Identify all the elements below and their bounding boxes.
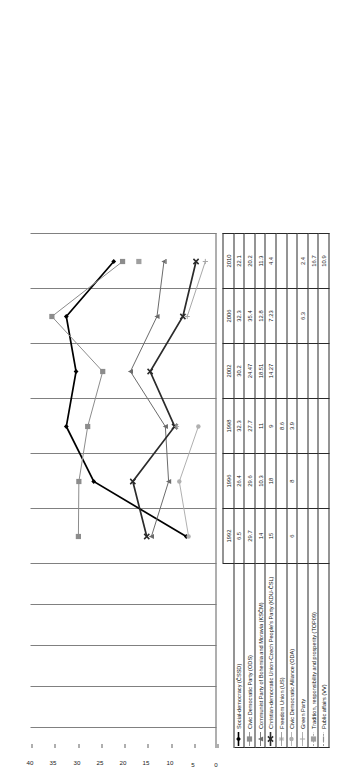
value-axis-tick: 5 (189, 750, 197, 766)
table-cell: 8.6 (275, 399, 286, 454)
table-column-header-2010: 2010 (223, 234, 234, 289)
legend-entry[interactable]: Civic Democratic Party (ODS) (244, 564, 255, 748)
table-cell (307, 454, 318, 509)
data-point-marker (100, 369, 105, 374)
data-point-marker (91, 479, 96, 484)
legend-entry-label: Social-democracy (ČSSD) (234, 664, 242, 729)
table-cell: 6 (286, 509, 297, 564)
data-point-marker (177, 479, 181, 483)
legend-entry[interactable]: Communist Party of Bohemia and Moravia (… (254, 564, 265, 748)
table-cell (275, 509, 286, 564)
data-point-marker (202, 259, 207, 264)
legend-entry-inner: Civic Democratic Party (ODS) (245, 564, 253, 747)
data-point-marker (278, 736, 283, 741)
table-cell: 7.23 (265, 289, 276, 344)
data-point-marker (73, 369, 78, 374)
value-axis-tick-label: 20 (119, 759, 126, 766)
table-cell (275, 344, 286, 399)
legend-entry-inner: Public affairs (VV) (319, 564, 327, 747)
table-cell (275, 289, 286, 344)
value-axis-tick-label: 10 (166, 759, 173, 766)
table-cell: 29.7 (244, 509, 255, 564)
table-cell (318, 454, 329, 509)
table-row: Social-democracy (ČSSD)6.526.432.330.232… (233, 234, 244, 748)
table-cell: 18 (265, 454, 276, 509)
legend-marker-icon (234, 731, 242, 747)
table-row: Tradition, responsibility and prosperity… (307, 234, 318, 748)
legend-marker-icon (245, 731, 253, 747)
table-column-header-1992: 1992 (223, 509, 234, 564)
series-0 (63, 259, 188, 539)
table-cell: 22.1 (233, 234, 244, 289)
legend-entry[interactable]: Civic Democratic Alliance (ODA) (286, 564, 297, 748)
table-row: Christian-democratic Union-Czech People'… (265, 234, 276, 748)
table-body: Social-democracy (ČSSD)6.526.432.330.232… (233, 234, 328, 748)
legend-entry[interactable]: Social-democracy (ČSSD) (233, 564, 244, 748)
series-7 (136, 259, 141, 264)
series-line (179, 427, 198, 537)
series-line (66, 262, 186, 537)
table-cell: 30.2 (233, 344, 244, 399)
series-2 (127, 259, 170, 539)
data-point-marker (162, 424, 167, 429)
table-cell (297, 399, 308, 454)
table-cell: 35.4 (244, 289, 255, 344)
data-point-marker (236, 736, 241, 741)
value-axis-tick-label: 5 (191, 761, 194, 768)
legend-marker-icon (256, 731, 264, 747)
legend-entry[interactable]: Green Party (297, 564, 308, 748)
value-axis-tick-label: 40 (26, 759, 33, 766)
legend-entry[interactable]: Tradition, responsibility and prosperity… (307, 564, 318, 748)
legend-marker-icon (287, 731, 295, 747)
legend-marker-icon (298, 731, 306, 747)
table-cell: 4.4 (265, 234, 276, 289)
table-cell: 11.3 (254, 234, 265, 289)
table-cell: 10.9 (318, 234, 329, 289)
series-line (51, 262, 122, 537)
data-point-marker (85, 424, 90, 429)
tick-mark (217, 744, 218, 748)
value-axis-tick-label: 30 (73, 759, 80, 766)
table-cell: 6.5 (233, 509, 244, 564)
table-cell: 14 (254, 509, 265, 564)
table-cell: 16.7 (307, 234, 318, 289)
value-axis-tick: 35 (49, 750, 57, 766)
legend-entry[interactable]: Public affairs (VV) (318, 564, 329, 748)
value-axis-tick-label: 35 (49, 759, 56, 766)
table-cell: 18.51 (254, 344, 265, 399)
table-cell (318, 399, 329, 454)
legend-entry-inner: Communist Party of Bohemia and Moravia (… (256, 564, 264, 747)
table-cell (318, 344, 329, 399)
table-cell: 15 (265, 509, 276, 564)
table-cell (297, 509, 308, 564)
table-row: Public affairs (VV)10.9 (318, 234, 329, 748)
table-cell: 24.47 (244, 344, 255, 399)
legend-entry[interactable]: Christian-democratic Union-Czech People'… (265, 564, 276, 748)
table-cell (307, 399, 318, 454)
table-cell: 26.4 (233, 454, 244, 509)
table-cell: 14.27 (265, 344, 276, 399)
table-cell: 10.3 (254, 454, 265, 509)
table-cell: 8 (286, 454, 297, 509)
legend-entry-label: Civic Democratic Party (ODS) (245, 655, 253, 729)
table-row: Freedom Union (US)8.6 (275, 234, 286, 748)
data-point-marker (127, 369, 132, 374)
data-point-marker (76, 479, 81, 484)
table-row: Communist Party of Bohemia and Moravia (… (254, 234, 265, 748)
table-column-header-2002: 2002 (223, 344, 234, 399)
data-table-wrapper: 199219961998200220062010 Social-democrac… (222, 233, 322, 748)
legend-entry[interactable]: Freedom Union (US) (275, 564, 286, 748)
data-point-marker (310, 736, 315, 741)
table-cell (307, 509, 318, 564)
value-axis-tick: 10 (166, 750, 174, 766)
series-5 (177, 424, 200, 538)
legend-entry-inner: Social-democracy (ČSSD) (234, 564, 242, 747)
table-cell: 11 (254, 399, 265, 454)
value-axis-tick-label: 15 (142, 759, 149, 766)
table-cell (275, 234, 286, 289)
value-axis-tick: 0 (212, 750, 220, 766)
legend-entry-label: Civic Democratic Alliance (ODA) (287, 649, 295, 729)
legend-entry-label: Freedom Union (US) (277, 677, 285, 729)
data-point-marker (136, 259, 141, 264)
legend-entry-label: Green Party (298, 699, 306, 729)
